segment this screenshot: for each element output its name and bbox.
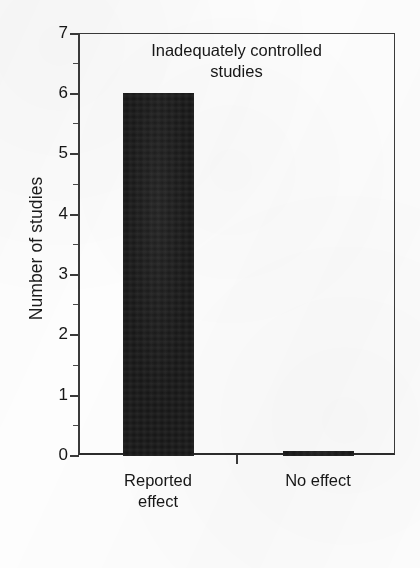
y-tick-label-6: 6 bbox=[28, 84, 68, 101]
y-tick-label-7: 7 bbox=[28, 24, 68, 41]
y-tick-label-4: 4 bbox=[28, 205, 68, 222]
y-tick-label-2: 2 bbox=[28, 325, 68, 342]
y-tick-label-5: 5 bbox=[28, 144, 68, 161]
x-category-label-no-effect: No effect bbox=[258, 470, 378, 491]
x-category-label-reported-effect: Reported effect bbox=[98, 470, 218, 513]
x-category-reported-line-2: effect bbox=[98, 491, 218, 512]
bar-chart-figure: Number of studies 7 6 5 4 3 2 1 0 Inadeq… bbox=[0, 0, 420, 568]
x-category-no-effect-line-1: No effect bbox=[258, 470, 378, 491]
chart-title: Inadequately controlled studies bbox=[78, 40, 395, 82]
bar-reported-effect bbox=[123, 93, 194, 456]
bar-no-effect bbox=[283, 451, 354, 456]
x-tick-divider bbox=[236, 455, 238, 464]
y-tick-label-0: 0 bbox=[28, 446, 68, 463]
y-tick-label-3: 3 bbox=[28, 265, 68, 282]
y-tick-major-0 bbox=[70, 455, 79, 457]
x-category-reported-line-1: Reported bbox=[98, 470, 218, 491]
y-tick-label-1: 1 bbox=[28, 386, 68, 403]
chart-title-line-2: studies bbox=[78, 61, 395, 82]
chart-title-line-1: Inadequately controlled bbox=[78, 40, 395, 61]
